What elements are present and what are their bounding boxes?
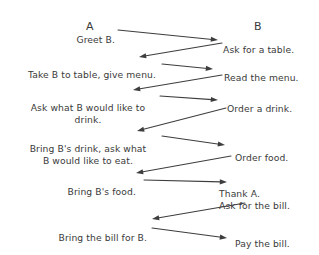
msg-ask-for-a-table-line-1: Ask for a table. xyxy=(223,44,294,56)
msg-read-the-menu: Read the menu. xyxy=(224,72,299,84)
arrow-ask-bill-head xyxy=(152,215,160,220)
arrow-greet-b xyxy=(118,30,218,42)
arrow-bring-food xyxy=(144,179,227,184)
arrow-take-to-table-shaft xyxy=(162,64,207,68)
msg-take-b-to-table: Take B to table, give menu. xyxy=(28,69,156,81)
arrow-take-to-table-head xyxy=(206,66,213,71)
msg-bring-the-bill-line-1: Bring the bill for B. xyxy=(59,232,148,244)
lane-header-b: B xyxy=(254,20,262,33)
arrow-order-drink-head xyxy=(137,127,145,132)
msg-bring-the-bill: Bring the bill for B. xyxy=(59,232,148,244)
msg-bring-drink-ask-food-line-2: B would like to eat. xyxy=(30,155,147,167)
msg-greet-b-line-1: Greet B. xyxy=(76,34,115,46)
msg-ask-what-b-would-like-to-drink: Ask what B would like todrink. xyxy=(31,102,146,125)
arrow-greet-b-shaft xyxy=(118,30,212,39)
msg-thank-a-ask-bill-line-2: Ask for the bill. xyxy=(219,200,290,212)
arrow-bring-bill-shaft xyxy=(152,228,221,237)
msg-bring-drink-ask-food: Bring B's drink, ask whatB would like to… xyxy=(30,143,147,166)
msg-take-b-to-table-line-1: Take B to table, give menu. xyxy=(28,69,156,81)
arrow-order-food-shaft xyxy=(142,156,231,172)
msg-ask-for-a-table: Ask for a table. xyxy=(223,44,294,56)
msg-ask-what-b-would-like-to-drink-line-2: drink. xyxy=(31,114,146,126)
arrow-order-drink-shaft xyxy=(143,108,226,130)
arrow-bring-drink-head xyxy=(218,141,225,146)
arrow-ask-for-table-shaft xyxy=(145,43,222,56)
arrow-bring-food-head xyxy=(220,179,227,184)
arrow-ask-drink-shaft xyxy=(160,96,212,100)
msg-thank-a-ask-bill: Thank A.Ask for the bill. xyxy=(219,188,290,211)
arrow-bring-drink xyxy=(162,136,225,147)
arrow-bring-bill xyxy=(152,228,227,240)
arrow-ask-for-table-head xyxy=(139,53,147,58)
msg-pay-the-bill-line-1: Pay the bill. xyxy=(235,238,290,250)
sequence-diagram: AB Greet B.Ask for a table.Take B to tab… xyxy=(0,0,319,255)
msg-read-the-menu-line-1: Read the menu. xyxy=(224,72,299,84)
msg-order-a-drink: Order a drink. xyxy=(227,103,292,115)
arrow-bring-food-shaft xyxy=(144,180,221,182)
msg-bring-b-food-line-1: Bring B's food. xyxy=(68,186,136,198)
arrow-order-food xyxy=(136,156,231,174)
arrow-read-menu-head xyxy=(133,86,141,91)
arrow-greet-b-head xyxy=(211,37,218,42)
arrow-order-food-head xyxy=(136,169,144,174)
msg-bring-b-food: Bring B's food. xyxy=(68,186,136,198)
arrow-order-drink xyxy=(137,108,226,132)
msg-greet-b: Greet B. xyxy=(76,34,115,46)
arrow-ask-drink-head xyxy=(211,97,218,102)
msg-bring-drink-ask-food-line-1: Bring B's drink, ask what xyxy=(30,143,147,155)
msg-order-a-drink-line-1: Order a drink. xyxy=(227,103,292,115)
arrow-ask-for-table xyxy=(139,43,222,58)
arrow-take-to-table xyxy=(162,64,213,71)
arrow-layer xyxy=(0,0,319,255)
arrow-bring-drink-shaft xyxy=(162,136,219,144)
msg-order-food: Order food. xyxy=(235,152,288,164)
lane-header-a: A xyxy=(86,20,94,33)
arrow-ask-drink xyxy=(160,96,218,102)
arrow-bring-bill-head xyxy=(220,234,227,239)
msg-ask-what-b-would-like-to-drink-line-1: Ask what B would like to xyxy=(31,102,146,114)
msg-pay-the-bill: Pay the bill. xyxy=(235,238,290,250)
msg-thank-a-ask-bill-line-1: Thank A. xyxy=(219,188,290,200)
msg-order-food-line-1: Order food. xyxy=(235,152,288,164)
